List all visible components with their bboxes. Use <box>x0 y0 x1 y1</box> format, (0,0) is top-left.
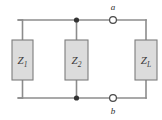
terminal-b-group: b <box>110 95 117 116</box>
impedance-zl: ZL <box>135 40 157 80</box>
circuit-canvas: Z1 Z2 ZL a b <box>0 0 162 120</box>
terminal-a-group: a <box>110 2 117 23</box>
junction-dot-bottom <box>74 95 79 100</box>
circuit-diagram: Z1 Z2 ZL a b <box>0 0 162 120</box>
zl-subscript: L <box>146 60 151 69</box>
terminal-a-circle <box>110 17 117 24</box>
junction-dot-top <box>74 17 79 22</box>
terminal-a-label: a <box>111 2 116 12</box>
impedance-z1: Z1 <box>12 40 33 80</box>
z1-subscript: 1 <box>24 60 28 69</box>
impedance-z2: Z2 <box>65 40 88 80</box>
terminal-b-circle <box>110 95 117 102</box>
z2-subscript: 2 <box>78 60 82 69</box>
terminal-b-label: b <box>111 106 116 116</box>
